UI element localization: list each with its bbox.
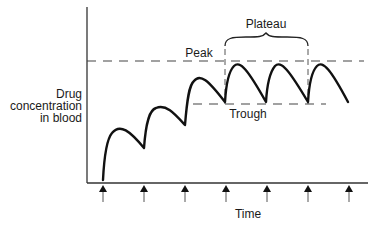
plateau-brace (225, 33, 308, 46)
peak-label: Peak (185, 46, 213, 60)
plateau-label: Plateau (246, 17, 287, 31)
dose-arrows (99, 185, 353, 202)
trough-label: Trough (229, 107, 267, 121)
dose-arrow-icon (304, 185, 312, 202)
dose-arrow-icon (99, 185, 107, 202)
dose-arrow-icon (222, 185, 230, 202)
dose-arrow-icon (263, 185, 271, 202)
concentration-diagram: Plateau Peak Trough Time (0, 0, 374, 229)
dose-arrow-icon (140, 185, 148, 202)
x-axis-label: Time (235, 207, 262, 221)
dose-arrow-icon (345, 185, 353, 202)
dose-arrow-icon (181, 185, 189, 202)
